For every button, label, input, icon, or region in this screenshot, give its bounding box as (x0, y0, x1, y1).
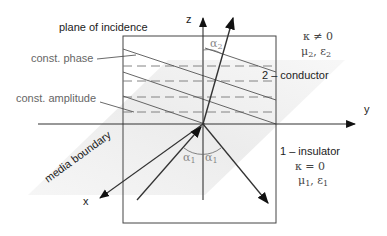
medium1-kappa: κ = 0 (295, 160, 325, 173)
conductor-label: 2 – conductor (262, 69, 329, 81)
refraction-diagram: plane of incidence const. phase const. a… (0, 0, 387, 236)
medium2-mu-eps: μ2, ε2 (301, 45, 331, 59)
medium2-kappa: κ ≠ 0 (303, 30, 333, 43)
medium1-mu-eps: μ1, ε1 (298, 174, 328, 188)
const-phase-label: const. phase (31, 52, 93, 64)
const-phase-leader (97, 55, 136, 59)
plane-of-incidence-label: plane of incidence (59, 21, 148, 33)
y-axis-label: y (364, 103, 370, 115)
alpha2-label: α2 (210, 37, 223, 51)
x-axis-label: x (83, 195, 89, 207)
z-axis-label: z (186, 13, 192, 25)
const-amplitude-label: const. amplitude (16, 92, 96, 104)
insulator-label: 1 – insulator (280, 145, 340, 157)
